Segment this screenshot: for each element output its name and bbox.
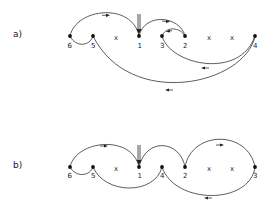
svg-text:1: 1 [138,172,142,180]
arrow-2-3 [168,31,172,32]
node-3: 3 [160,34,164,50]
svg-text:3: 3 [160,42,164,50]
svg-text:4: 4 [160,172,165,180]
node-6: 6 [68,165,73,180]
panel-a: a) 6 5 1 3 2 4 x x x [13,13,258,90]
cross-mark: x [230,165,234,173]
edge-6-5 [70,167,93,175]
cross-mark: x [230,34,234,42]
node-4: 4 [253,34,258,50]
panel-label-a: a) [13,29,22,39]
svg-text:1: 1 [138,42,142,50]
svg-text:5: 5 [91,172,95,180]
edge-4-5 [93,36,255,83]
node-2: 2 [183,34,187,50]
edge-2-3 [185,139,255,167]
svg-text:3: 3 [253,172,257,180]
diagram-canvas: a) 6 5 1 3 2 4 x x x b) [0,0,273,208]
edge-5-4 [93,167,162,188]
svg-text:2: 2 [183,42,187,50]
node-2: 2 [183,165,187,180]
node-3: 3 [253,165,257,180]
svg-text:6: 6 [68,42,73,50]
arrow-1-2 [162,21,168,22]
node-1: 1 [137,34,142,50]
node-5: 5 [91,165,95,180]
cross-mark: x [114,165,118,173]
edge-1-2 [139,19,185,36]
node-6: 6 [68,34,73,50]
edge-6-1 [70,13,139,36]
edge-1-2 [139,146,185,167]
node-4: 4 [160,165,165,180]
cross-mark: x [207,165,211,173]
svg-text:6: 6 [68,172,73,180]
edge-6-1 [70,144,139,167]
node-1: 1 [137,165,142,180]
node-5: 5 [91,34,95,50]
panel-label-b: b) [13,160,22,170]
svg-text:4: 4 [253,42,258,50]
cross-mark: x [207,34,211,42]
svg-text:2: 2 [183,172,187,180]
edge-6-5 [70,36,93,44]
edge-2-3 [162,29,185,36]
svg-text:5: 5 [91,42,95,50]
cross-mark: x [114,34,118,42]
panel-b: b) 6 5 1 4 2 3 x x x [13,139,257,198]
